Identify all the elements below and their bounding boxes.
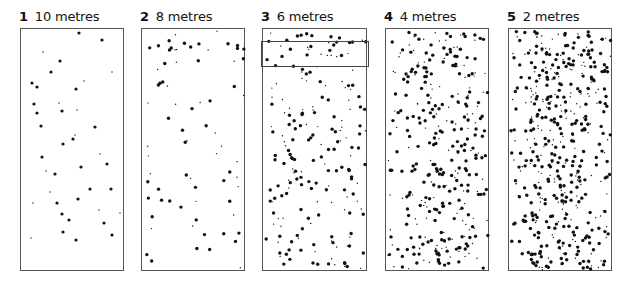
- dot-scatter: [509, 29, 613, 272]
- panel-distance-label: 8 metres: [156, 9, 212, 24]
- highlight-band: [261, 41, 369, 67]
- panel-distance-label: 6 metres: [277, 9, 333, 24]
- panel-label-5: 52 metres: [507, 9, 579, 24]
- panel-label-4: 44 metres: [384, 9, 456, 24]
- panel-number: 4: [384, 9, 393, 24]
- dot-panel-5: [508, 28, 612, 271]
- panel-distance-label: 2 metres: [523, 9, 579, 24]
- panel-distance-label: 4 metres: [400, 9, 456, 24]
- panel-label-2: 28 metres: [140, 9, 212, 24]
- panel-distance-label: 10 metres: [35, 9, 99, 24]
- dot-scatter: [386, 29, 490, 272]
- dot-scatter: [142, 29, 246, 272]
- dot-panel-1: [20, 28, 124, 271]
- panel-number: 2: [140, 9, 149, 24]
- panel-label-3: 36 metres: [261, 9, 333, 24]
- panel-number: 3: [261, 9, 270, 24]
- dot-scatter: [21, 29, 125, 272]
- panel-number: 1: [19, 9, 28, 24]
- dot-panel-4: [385, 28, 489, 271]
- panel-label-1: 110 metres: [19, 9, 99, 24]
- panel-number: 5: [507, 9, 516, 24]
- dot-panel-2: [141, 28, 245, 271]
